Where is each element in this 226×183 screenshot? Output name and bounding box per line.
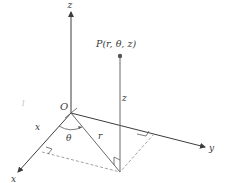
dashed-to-y-axis: [120, 134, 154, 172]
stray-mark: l: [22, 99, 25, 108]
radius-line: [71, 113, 120, 172]
x-axis: [18, 113, 71, 172]
y-axis-label: y: [208, 143, 215, 153]
y-axis: [71, 113, 205, 147]
radius-label: r: [98, 131, 103, 141]
point-p-label: P(r, θ, z): [95, 38, 136, 49]
z-axis-label: z: [67, 0, 73, 10]
right-angle-foot: [114, 157, 120, 165]
cylindrical-coordinates-diagram: z y x O P(r, θ, z) z r θ x l: [0, 0, 226, 183]
point-p: [118, 54, 122, 58]
height-label: z: [121, 93, 127, 103]
dashed-to-x-axis: [42, 152, 120, 172]
right-angle-x: [46, 147, 52, 154]
x-axis-label: x: [11, 174, 16, 183]
origin-label: O: [60, 101, 68, 112]
x-segment-label: x: [35, 122, 40, 132]
theta-label: θ: [66, 133, 72, 143]
